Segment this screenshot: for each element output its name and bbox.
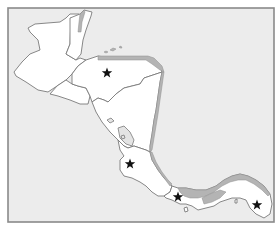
map-canvas	[0, 0, 279, 228]
lake-island	[121, 135, 125, 139]
central-america-map	[0, 0, 279, 228]
island-1	[184, 207, 188, 212]
island-2	[235, 199, 237, 203]
